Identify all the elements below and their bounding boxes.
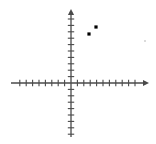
data-point <box>144 40 146 42</box>
y-axis-arrowhead-icon <box>68 9 74 15</box>
coordinate-plane-figure <box>0 0 156 144</box>
data-points-group <box>87 25 145 41</box>
x-axis-arrowhead-icon <box>143 80 149 86</box>
data-point <box>87 32 90 35</box>
data-point <box>94 25 97 28</box>
coordinate-plane-svg <box>0 0 156 144</box>
